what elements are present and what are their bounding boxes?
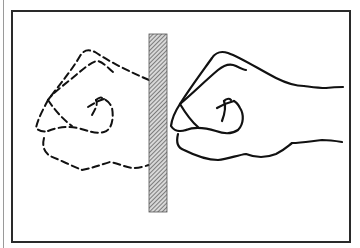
dashed-fist-icon xyxy=(36,50,149,170)
barrier-bar xyxy=(149,34,167,212)
solid-fist-icon xyxy=(171,52,343,160)
fist-barrier-illustration xyxy=(0,0,360,248)
